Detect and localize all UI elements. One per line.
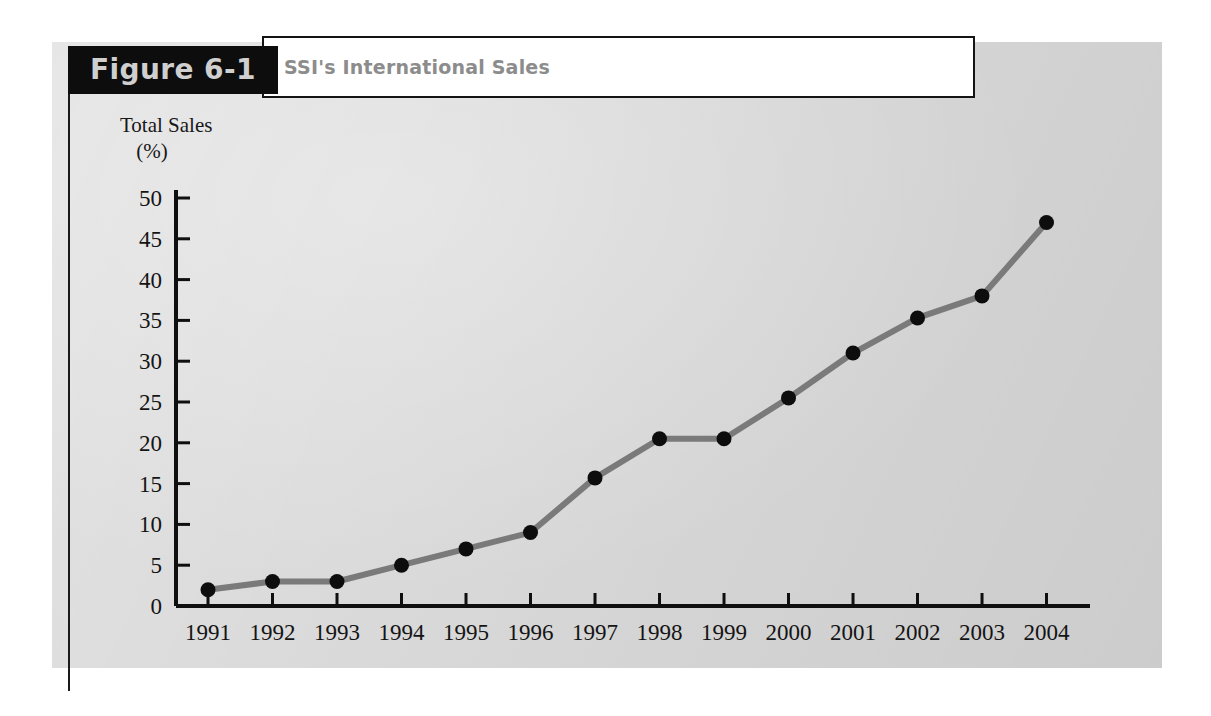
panel-texture [52, 42, 1162, 668]
figure-title-box: SSI's International Sales [262, 36, 975, 98]
figure-label: Figure 6-1 [90, 53, 256, 86]
figure-panel [52, 42, 1162, 668]
left-margin-rule [68, 46, 70, 691]
figure-title: SSI's International Sales [284, 56, 550, 78]
figure-label-bar: Figure 6-1 [68, 46, 278, 94]
